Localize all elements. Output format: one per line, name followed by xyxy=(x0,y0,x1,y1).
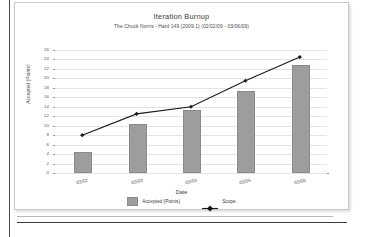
page-bottom-rule xyxy=(17,222,347,223)
bar-swatch-icon xyxy=(127,197,138,206)
y-tick-label: 4 xyxy=(19,152,49,156)
y-tick-label: 16 xyxy=(19,95,49,99)
document-page: Iteration Burnup The Chuck Norris - Hard… xyxy=(0,0,365,237)
page-left-rule xyxy=(9,0,10,237)
x-tick-label: 03/02 xyxy=(59,174,105,188)
y-tick-label: 14 xyxy=(19,105,49,109)
y-tick-label: 22 xyxy=(19,67,49,71)
legend-item-accepted: Accepted (Points) xyxy=(127,197,180,206)
chart-title: Iteration Burnup xyxy=(15,12,348,21)
legend-item-scope: Scope xyxy=(202,198,236,205)
scope-data-point xyxy=(135,112,139,116)
gridline xyxy=(55,173,327,174)
y-tick-label: 2 xyxy=(19,162,49,166)
scope-data-point xyxy=(80,133,84,137)
y-tick-label: 18 xyxy=(19,86,49,90)
legend-label-accepted: Accepted (Points) xyxy=(142,199,180,204)
x-tick-label: 03/04 xyxy=(168,174,214,188)
scope-data-point xyxy=(298,55,302,59)
y-axis-title: Accepted (Points) xyxy=(25,44,31,124)
scope-line-series xyxy=(55,50,327,173)
y-tick-label: 26 xyxy=(19,48,49,52)
y-tick-label: 12 xyxy=(19,114,49,118)
chart-card: Iteration Burnup The Chuck Norris - Hard… xyxy=(14,2,349,210)
scope-data-point xyxy=(189,105,193,109)
page-bottom-rule-light xyxy=(17,216,333,217)
legend-label-scope: Scope xyxy=(222,199,236,204)
chart-legend: Accepted (Points) Scope xyxy=(15,197,348,206)
y-tick-label: 8 xyxy=(19,133,49,137)
x-tick-label: 03/05 xyxy=(222,174,268,188)
y-tick-label: 20 xyxy=(19,76,49,80)
line-diamond-icon xyxy=(202,198,218,205)
x-tick-label: 03/06 xyxy=(277,174,323,188)
x-axis-title: Date xyxy=(15,189,348,195)
plot-area xyxy=(55,50,327,173)
x-tick-label: 03/03 xyxy=(114,174,160,188)
y-tick-label: 10 xyxy=(19,124,49,128)
y-tick-label: 24 xyxy=(19,57,49,61)
chart-subtitle: The Chuck Norris - Hard 149 (2009.1) (02… xyxy=(15,24,348,29)
scope-data-point xyxy=(243,79,247,83)
y-tick-label: 6 xyxy=(19,143,49,147)
y-tick-label: 0 xyxy=(19,171,49,175)
